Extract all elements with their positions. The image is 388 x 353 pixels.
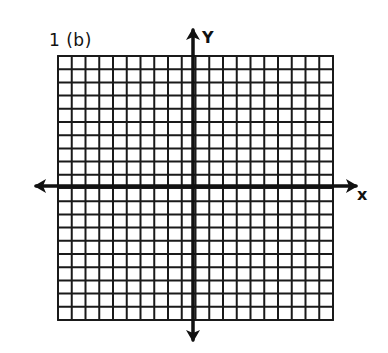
- x-axis-label: x: [357, 185, 367, 204]
- problem-label: 1 (b): [49, 30, 92, 50]
- coordinate-grid-diagram: [0, 0, 388, 353]
- y-axis-label: Y: [202, 28, 214, 47]
- grid-lines: [58, 56, 333, 320]
